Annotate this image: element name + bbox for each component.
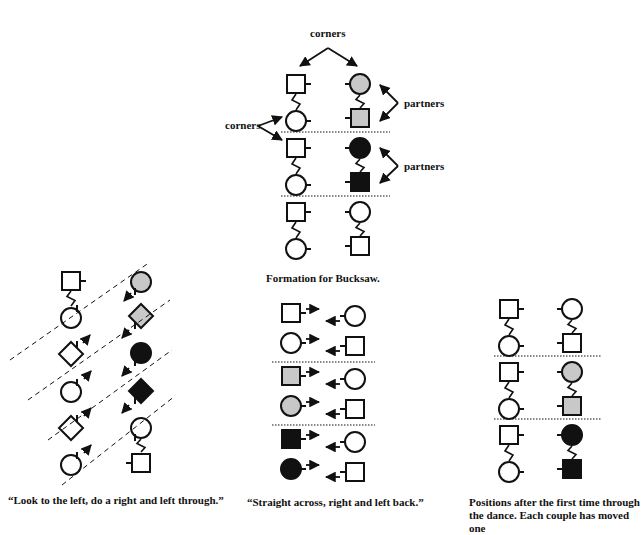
up-right-arrow bbox=[84, 408, 91, 416]
hand-hold-connector bbox=[292, 158, 300, 174]
white-circle-dancer bbox=[345, 432, 365, 452]
white-square-dancer bbox=[346, 463, 364, 481]
white-circle-dancer bbox=[286, 111, 306, 131]
diagonal-guide-line bbox=[62, 396, 175, 485]
white-circle-dancer bbox=[281, 333, 301, 353]
white-circle-dancer bbox=[345, 306, 365, 326]
white-diamond-dancer bbox=[59, 342, 83, 366]
gray-circle-dancer bbox=[350, 74, 370, 94]
hand-hold-connector bbox=[568, 383, 576, 396]
black-square-dancer bbox=[351, 173, 369, 191]
hand-hold-connector bbox=[505, 382, 513, 398]
up-right-arrow bbox=[84, 445, 91, 453]
up-right-arrow bbox=[84, 371, 91, 379]
white-circle-dancer bbox=[350, 202, 370, 222]
hand-hold-connector bbox=[505, 445, 513, 461]
gray-diamond-dancer bbox=[129, 304, 153, 328]
white-square-dancer bbox=[62, 272, 80, 290]
black-square-dancer bbox=[282, 430, 300, 448]
middle-panel-diagram bbox=[272, 304, 375, 481]
hand-hold-connector bbox=[67, 291, 75, 306]
partners-arrow-up-1 bbox=[380, 85, 398, 103]
white-circle-dancer bbox=[499, 399, 519, 419]
gray-circle-dancer bbox=[562, 362, 582, 382]
white-square-dancer bbox=[287, 75, 305, 93]
corners-arrow-left bbox=[300, 48, 328, 66]
white-square-dancer bbox=[346, 337, 364, 355]
white-circle-dancer bbox=[499, 462, 519, 482]
white-circle-dancer bbox=[286, 239, 306, 259]
middle-panel-caption: “Straight across, right and left back.” bbox=[247, 496, 467, 509]
white-square-dancer bbox=[563, 334, 581, 352]
white-square-dancer bbox=[132, 454, 150, 472]
corners-label-left: corners bbox=[225, 119, 260, 132]
black-circle-dancer bbox=[281, 459, 301, 479]
white-square-dancer bbox=[346, 400, 364, 418]
gray-square-dancer bbox=[282, 367, 300, 385]
white-circle-dancer bbox=[562, 299, 582, 319]
corners-arrow-up bbox=[258, 117, 282, 126]
hand-hold-connector bbox=[356, 223, 364, 236]
left-panel-caption: “Look to the left, do a right and left t… bbox=[8, 494, 228, 507]
down-left-arrow bbox=[124, 293, 131, 301]
partners-arrow-up-2 bbox=[380, 148, 398, 166]
black-square-dancer bbox=[563, 460, 581, 478]
black-diamond-dancer bbox=[129, 379, 153, 403]
corners-arrow-down bbox=[258, 126, 282, 140]
partners-arrow-down-2 bbox=[380, 166, 398, 183]
white-diamond-dancer bbox=[59, 416, 83, 440]
up-right-arrow bbox=[83, 335, 90, 343]
partners-label-1: partners bbox=[404, 97, 444, 110]
white-square-dancer bbox=[500, 300, 518, 318]
corners-arrow-right bbox=[328, 48, 357, 66]
black-circle-dancer bbox=[562, 425, 582, 445]
gray-circle-dancer bbox=[281, 396, 301, 416]
white-circle-dancer bbox=[345, 369, 365, 389]
white-square-dancer bbox=[287, 139, 305, 157]
hand-hold-connector bbox=[137, 439, 145, 452]
white-square-dancer bbox=[500, 363, 518, 381]
down-left-arrow bbox=[122, 368, 129, 376]
white-square-dancer bbox=[282, 304, 300, 322]
left-panel-diagram bbox=[10, 262, 175, 485]
gray-square-dancer bbox=[563, 397, 581, 415]
top-formation bbox=[281, 74, 390, 259]
gray-square-dancer bbox=[351, 109, 369, 127]
hand-hold-connector bbox=[568, 320, 576, 333]
hand-hold-connector bbox=[505, 319, 513, 335]
partners-label-2: partners bbox=[404, 160, 444, 173]
white-circle-dancer bbox=[286, 175, 306, 195]
white-square-dancer bbox=[287, 203, 305, 221]
partners-arrow-down-1 bbox=[380, 103, 398, 121]
annotation-arrows bbox=[258, 48, 398, 183]
white-square-dancer bbox=[500, 426, 518, 444]
right-panel-diagram bbox=[494, 299, 602, 482]
hand-hold-connector bbox=[356, 159, 364, 172]
hand-hold-connector bbox=[292, 94, 300, 110]
white-square-dancer bbox=[351, 237, 369, 255]
formation-caption: Formation for Bucksaw. bbox=[266, 272, 380, 284]
hand-hold-connector bbox=[356, 95, 364, 108]
down-left-arrow bbox=[122, 405, 129, 413]
hand-hold-connector bbox=[568, 446, 576, 459]
hand-hold-connector bbox=[292, 222, 300, 238]
white-circle-dancer bbox=[499, 336, 519, 356]
corners-label-top: corners bbox=[310, 27, 345, 40]
black-circle-dancer bbox=[350, 138, 370, 158]
right-panel-caption: Positions after the first time through t… bbox=[469, 496, 644, 535]
